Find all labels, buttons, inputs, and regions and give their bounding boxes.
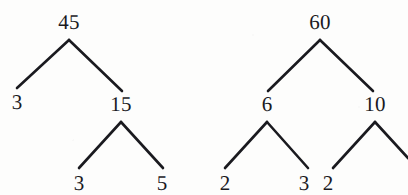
- tree-edge: [333, 122, 375, 168]
- tree-edge: [267, 122, 308, 168]
- tree-edge: [320, 40, 373, 91]
- tree-node-value: 6: [262, 94, 273, 115]
- tree-edge: [69, 40, 122, 91]
- tree-edge: [268, 40, 320, 91]
- tree-node-value: 15: [110, 94, 131, 115]
- tree-node-value: 3: [299, 173, 310, 194]
- tree-edge: [225, 122, 267, 168]
- tree-node-value: 2: [323, 173, 334, 194]
- factor-tree-figure: 453153560610232: [0, 0, 408, 195]
- tree-node-value: 5: [157, 173, 168, 194]
- tree-node-value: 2: [220, 173, 231, 194]
- tree-node-value: 45: [58, 12, 79, 33]
- tree-node-value: 60: [309, 12, 330, 33]
- tree-edge: [121, 122, 163, 168]
- tree-node-value: 3: [74, 173, 85, 194]
- edge-group: [17, 40, 408, 168]
- tree-edge: [17, 40, 69, 88]
- tree-edge: [79, 122, 121, 168]
- tree-edge: [375, 122, 408, 158]
- tree-node-value: 3: [12, 92, 23, 113]
- tree-node-value: 10: [364, 94, 385, 115]
